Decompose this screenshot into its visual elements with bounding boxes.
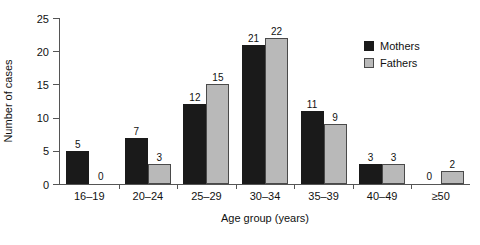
bar-mothers: 3 [359,164,382,184]
x-axis-tick-mark [119,184,120,189]
bar-value-label: 5 [75,139,81,150]
bar-value-label: 9 [332,112,338,123]
y-axis-tick-label: 5 [43,145,49,157]
bar-fathers: 2 [441,171,464,184]
legend-label-fathers: Fathers [380,57,417,69]
bar-value-label: 3 [391,152,397,163]
bar-fathers: 3 [382,164,405,184]
bar-mothers: 21 [242,45,265,184]
y-axis-tick-mark [53,118,59,119]
bar-group: 2122 [242,18,288,184]
y-axis-title: Number of cases [2,59,14,142]
bar-value-label: 0 [98,171,104,182]
bar-fathers: 9 [324,124,347,184]
x-axis-category-label: 16–19 [60,190,119,202]
bar-value-label: 22 [271,26,282,37]
bar-value-label: 12 [189,92,200,103]
bar-value-label: 7 [134,126,140,137]
legend-item-mothers: Mothers [364,38,420,53]
bar-mothers: 12 [183,104,206,184]
y-axis-tick-mark [53,151,59,152]
bar-group: 1215 [183,18,229,184]
bar-fathers: 3 [148,164,171,184]
bar-chart: 0510152025 Number of cases Age group (ye… [0,0,480,245]
x-axis-category-label: ≥50 [411,190,470,202]
x-axis-tick-mark [177,184,178,189]
legend-swatch-mothers-icon [364,41,374,51]
y-axis-tick-label: 10 [37,112,49,124]
bar-mothers: 7 [125,138,148,184]
bar-group: 02 [418,18,464,184]
y-axis-tick-mark [53,184,59,185]
legend-swatch-fathers-icon [364,58,374,68]
x-axis-tick-mark [294,184,295,189]
bar-group: 119 [301,18,347,184]
bar-mothers: 5 [66,151,89,184]
y-axis-tick-label: 0 [43,179,49,191]
bar-fathers: 22 [265,38,288,184]
bar-value-label: 21 [248,33,259,44]
bar-value-label: 0 [426,171,432,182]
x-axis-tick-mark [353,184,354,189]
bar-mothers: 11 [301,111,324,184]
legend: Mothers Fathers [364,38,420,72]
bar-fathers: 15 [206,84,229,184]
x-axis-category-label: 40–49 [353,190,412,202]
x-axis-title: Age group (years) [60,212,470,224]
x-axis-category-label: 35–39 [294,190,353,202]
y-axis-tick-label: 15 [37,79,49,91]
y-axis-tick-label: 20 [37,46,49,58]
x-axis-tick-mark [236,184,237,189]
x-axis-line [59,184,470,185]
bar-group: 50 [66,18,112,184]
y-axis-tick-label: 25 [37,13,49,25]
x-axis-category-label: 30–34 [236,190,295,202]
x-axis-category-label: 20–24 [119,190,178,202]
x-axis-tick-mark [411,184,412,189]
y-axis-tick-mark [53,18,59,19]
bar-value-label: 3 [368,152,374,163]
bar-group: 73 [125,18,171,184]
legend-label-mothers: Mothers [380,40,420,52]
bar-value-label: 15 [212,72,223,83]
bar-value-label: 2 [449,159,455,170]
y-axis-tick-mark [53,84,59,85]
y-axis-tick-mark [53,51,59,52]
legend-item-fathers: Fathers [364,55,420,70]
x-axis-category-label: 25–29 [177,190,236,202]
bar-value-label: 11 [307,99,317,110]
bar-value-label: 3 [157,152,163,163]
